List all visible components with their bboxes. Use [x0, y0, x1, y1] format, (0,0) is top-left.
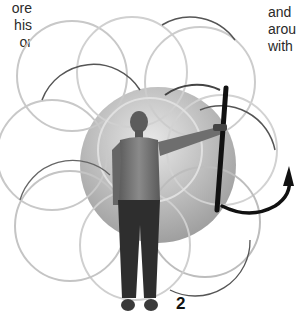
figure-number: 2: [176, 294, 185, 314]
rotation-illustration: [0, 0, 299, 325]
